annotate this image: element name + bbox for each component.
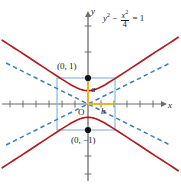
vertex-top-label: (0, 1): [57, 62, 77, 71]
equation-label: y2 − x24 = 1: [103, 9, 144, 29]
equation-rhs: 1: [140, 13, 145, 23]
equation-equals: =: [132, 13, 137, 23]
origin-label: O: [78, 108, 85, 117]
equation-x-exponent: 2: [125, 9, 128, 15]
equation-y-exponent: 2: [107, 12, 110, 18]
vertex-bottom-dot: [85, 127, 91, 133]
upper-branch-poly: [2, 37, 178, 90]
x-axis-label: x: [168, 101, 172, 110]
axes-group: [2, 16, 162, 181]
equation-fraction: x24: [121, 9, 130, 29]
hyperbola-figure: x y (0, 1) (0, −1) a b O y2 − x24 = 1: [0, 0, 181, 185]
semi-transverse-axis-label: a: [91, 85, 96, 94]
semi-conjugate-axis-label: b: [101, 107, 106, 116]
y-axis-label: y: [91, 7, 95, 16]
vertex-top-dot: [85, 75, 91, 81]
equation-fraction-numerator: x2: [121, 9, 130, 21]
equation-fraction-denominator: 4: [121, 21, 130, 29]
equation-minus: −: [112, 13, 117, 23]
vertex-bottom-label: (0, −1): [71, 136, 96, 145]
